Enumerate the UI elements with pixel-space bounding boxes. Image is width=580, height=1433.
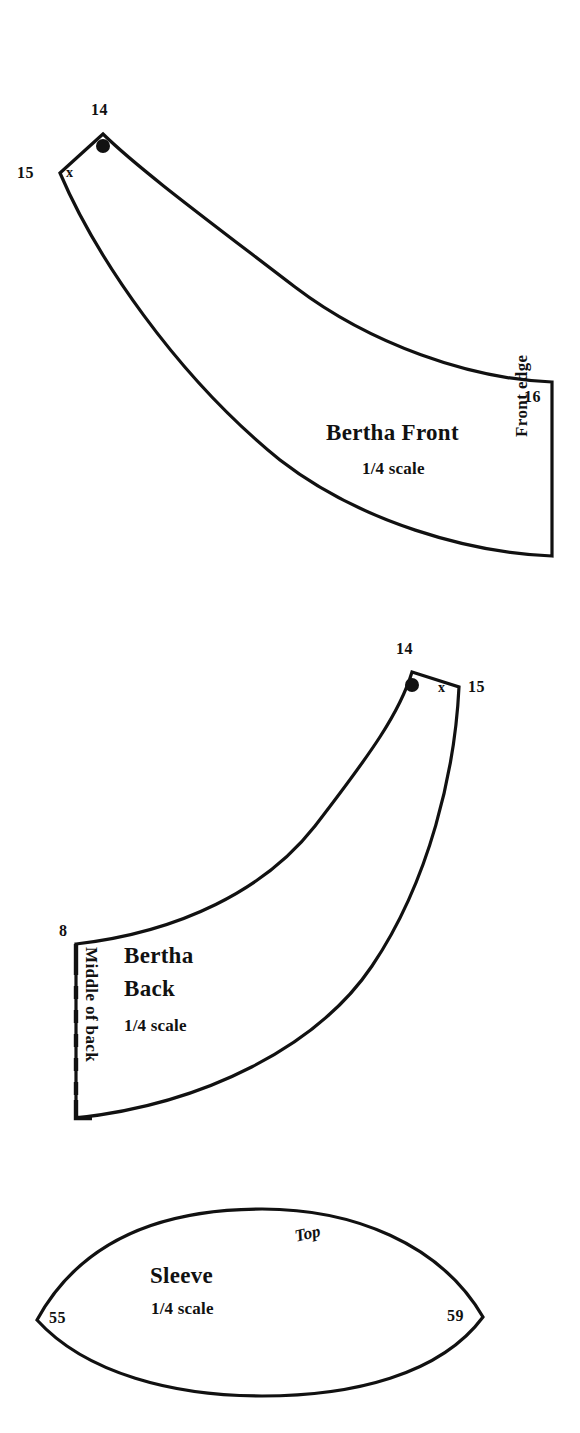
pattern-sheet: 14 15 x 16 Bertha Front 1/4 scale Front … — [0, 0, 580, 1433]
sleeve-title: Sleeve — [150, 1264, 213, 1287]
bertha-back-measure-8: 8 — [59, 923, 68, 939]
bertha-back-title-line1: Bertha — [124, 944, 194, 967]
sleeve-measure-59: 59 — [447, 1308, 464, 1324]
bertha-front-measure-14: 14 — [91, 102, 108, 118]
sleeve-scale: 1/4 scale — [151, 1300, 214, 1317]
bertha-back-measure-14: 14 — [396, 641, 413, 657]
bertha-front-outline — [60, 134, 552, 556]
bertha-front-dot-marker — [96, 139, 110, 153]
sleeve-outline — [37, 1209, 483, 1396]
bertha-back-dot-marker — [405, 678, 419, 692]
bertha-front-x-mark: x — [66, 166, 73, 180]
bertha-back-title-line2: Back — [124, 977, 175, 1000]
bertha-front-measure-15: 15 — [17, 165, 34, 181]
bertha-back-edge-label: Middle of back — [83, 947, 100, 1062]
bertha-back-measure-15: 15 — [468, 679, 485, 695]
bertha-back-x-mark: x — [438, 681, 445, 695]
pattern-drawing-canvas — [0, 0, 580, 1433]
bertha-front-title: Bertha Front — [326, 421, 459, 444]
sleeve-measure-55: 55 — [49, 1310, 66, 1326]
bertha-front-scale: 1/4 scale — [362, 460, 425, 477]
bertha-back-outline — [76, 672, 459, 1118]
bertha-front-edge-label: Front edge — [513, 354, 530, 437]
bertha-back-scale: 1/4 scale — [124, 1017, 187, 1034]
